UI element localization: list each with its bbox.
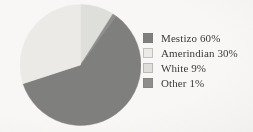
- legend-label-white: White 9%: [161, 62, 206, 74]
- legend-label-other: Other 1%: [161, 77, 204, 89]
- pie-chart-graphic: [20, 4, 141, 126]
- legend-swatch-mestizo: [143, 33, 153, 43]
- legend-label-mestizo: Mestizo 60%: [161, 32, 220, 44]
- legend-swatch-amerindian: [143, 48, 153, 58]
- chart-legend: Mestizo 60% Amerindian 30% White 9% Othe…: [143, 30, 251, 90]
- legend-label-amerindian: Amerindian 30%: [161, 47, 238, 59]
- pie-slice-group: [20, 5, 141, 126]
- legend-item-other: Other 1%: [143, 75, 251, 90]
- legend-item-white: White 9%: [143, 60, 251, 75]
- legend-item-amerindian: Amerindian 30%: [143, 45, 251, 60]
- legend-swatch-other: [143, 78, 153, 88]
- pie-chart-figure: Mestizo 60% Amerindian 30% White 9% Othe…: [0, 0, 253, 132]
- pie-svg: [20, 4, 141, 126]
- legend-swatch-white: [143, 63, 153, 73]
- legend-item-mestizo: Mestizo 60%: [143, 30, 251, 45]
